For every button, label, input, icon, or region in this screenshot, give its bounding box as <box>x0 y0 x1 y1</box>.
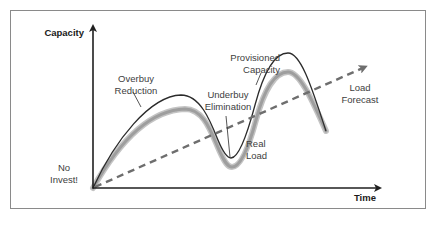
provisioned-line-1: Provisioned <box>212 52 280 64</box>
underbuy-line-2: Elimination <box>198 101 258 113</box>
x-axis-label: Time <box>350 192 380 204</box>
load-forecast-label: Load Forecast <box>335 82 385 105</box>
y-axis-label-text: Capacity <box>24 27 84 39</box>
real-load-line-2: Load <box>246 150 286 162</box>
overbuy-reduction-label: Overbuy Reduction <box>106 73 166 96</box>
provisioned-line-2: Capacity <box>212 64 280 76</box>
no-invest-line-2: Invest! <box>42 174 86 186</box>
x-axis-label-text: Time <box>350 192 380 204</box>
overbuy-line-1: Overbuy <box>106 73 166 85</box>
y-axis-label: Capacity <box>24 27 84 39</box>
real-load-label: Real Load <box>246 138 286 161</box>
overbuy-line-2: Reduction <box>106 85 166 97</box>
underbuy-line-1: Underbuy <box>198 89 258 101</box>
real-load-line-1: Real <box>246 138 286 150</box>
no-invest-line-1: No <box>42 162 86 174</box>
provisioned-capacity-label: Provisioned Capacity <box>212 52 280 75</box>
load-forecast-line-2: Forecast <box>335 94 385 106</box>
no-invest-label: No Invest! <box>42 162 86 185</box>
underbuy-leader-line <box>226 116 230 157</box>
load-forecast-line-1: Load <box>335 82 385 94</box>
underbuy-elimination-label: Underbuy Elimination <box>198 89 258 112</box>
